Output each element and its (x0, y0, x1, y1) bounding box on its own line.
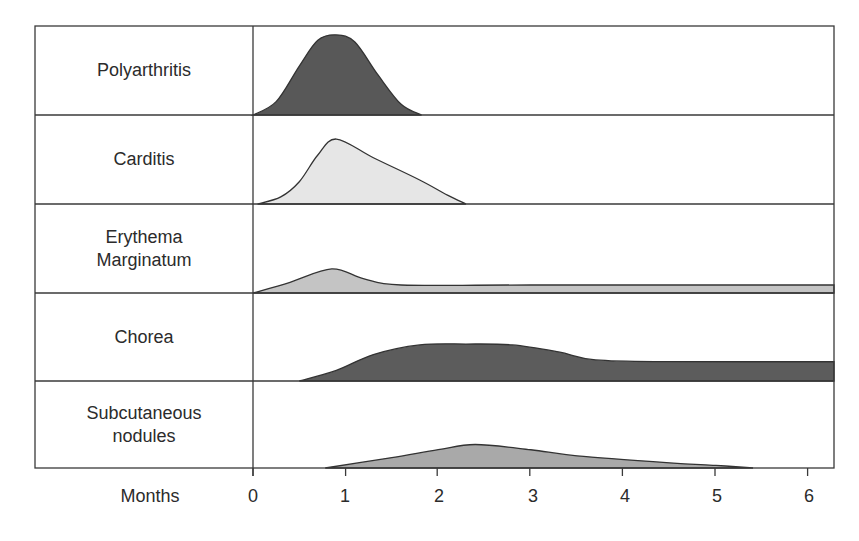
row-label-carditis: Carditis (35, 115, 253, 204)
curve-subcutaneous-nodules (325, 445, 753, 468)
x-axis-title: Months (110, 486, 190, 507)
curve-erythema-marginatum (253, 269, 834, 293)
x-tick-label: 5 (702, 486, 732, 507)
x-tick-label: 0 (238, 486, 268, 507)
x-axis-ticks (253, 468, 808, 476)
curve-polyarthritis (253, 35, 422, 115)
row-label-subcutaneous-nodules: Subcutaneous nodules (35, 381, 253, 468)
x-tick-label: 2 (424, 486, 454, 507)
x-tick-label: 3 (518, 486, 548, 507)
row-label-erythema-marginatum: Erythema Marginatum (35, 204, 253, 293)
row-label-polyarthritis: Polyarthritis (35, 26, 253, 115)
curve-carditis (258, 139, 466, 204)
x-tick-label: 4 (610, 486, 640, 507)
x-tick-label: 1 (330, 486, 360, 507)
curve-layer (253, 35, 834, 468)
row-label-chorea: Chorea (35, 293, 253, 381)
curve-chorea (299, 344, 834, 381)
x-tick-label: 6 (794, 486, 824, 507)
